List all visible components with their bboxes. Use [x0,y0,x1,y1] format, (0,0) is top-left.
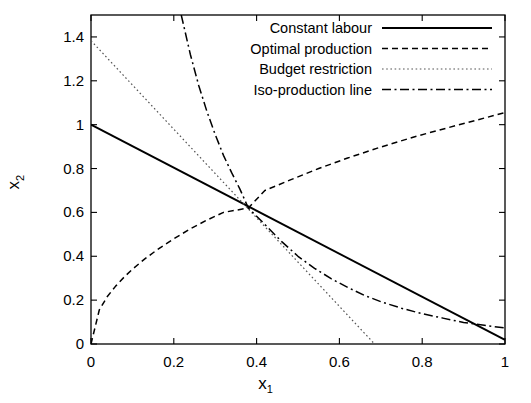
legend-label-0: Constant labour [150,21,372,36]
x-tick-label-4: 0.8 [397,354,447,369]
series-line-constant-labour [91,125,505,340]
y-tick-label-3: 0.6 [63,204,84,219]
y-axis-label-base: x [4,181,23,190]
chart-figure: 00.20.40.60.811.21.4 00.20.40.60.81 x1 x… [0,0,531,403]
legend-label-3: Iso-production line [150,83,372,98]
y-tick-label-4: 0.8 [63,161,84,176]
y-tick-label-2: 0.4 [63,248,84,263]
x-tick-label-0: 0 [66,354,116,369]
x-tick-label-1: 0.2 [149,354,199,369]
y-axis-label-subscript: 2 [14,175,26,181]
y-tick-label-1: 0.2 [63,292,84,307]
y-tick-label-7: 1.4 [63,29,84,44]
y-tick-label-6: 1.2 [63,73,84,88]
legend-label-2: Budget restriction [150,62,372,77]
y-tick-label-5: 1 [76,117,84,132]
x-tick-label-5: 1 [480,354,530,369]
x-axis-label-subscript: 1 [267,383,273,395]
legend-label-1: Optimal production [150,42,372,57]
series-line-optimal-production [91,113,505,344]
x-tick-label-3: 0.6 [314,354,364,369]
x-axis-label-base: x [258,374,267,393]
x-tick-label-2: 0.4 [232,354,282,369]
x-axis-label: x1 [0,375,531,395]
y-axis-label: x2 [5,175,25,190]
legend-line-samples [382,28,492,90]
y-tick-label-0: 0 [76,336,84,351]
